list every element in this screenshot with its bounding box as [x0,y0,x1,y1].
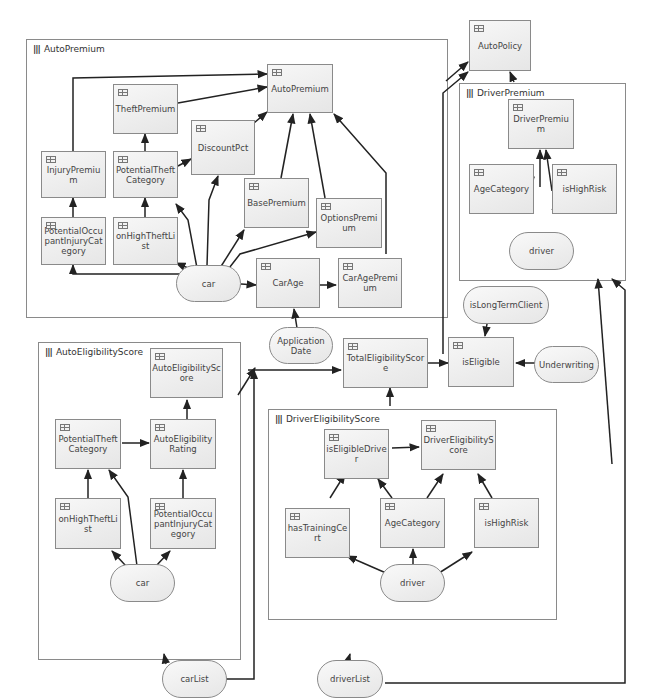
table-icon [118,222,128,229]
group-title: AutoPremium [44,44,105,54]
module-bars-icon: ||| [33,44,40,54]
module-bars-icon: ||| [466,88,473,98]
input-underwriting[interactable]: Underwriting [534,346,599,383]
table-icon [118,156,128,163]
input-application-date[interactable]: Application Date [269,327,333,364]
table-icon [290,513,300,520]
table-icon [155,424,165,431]
table-icon [479,503,489,510]
node-driver-premium[interactable]: DriverPremium [508,99,574,149]
node-aes-potential-occupant-injury-category[interactable]: PotentialOccupantInjuryCategory [150,498,216,549]
table-icon [329,434,339,441]
table-icon [348,343,358,350]
node-theft-premium[interactable]: TheftPremium [113,84,178,134]
module-bars-icon: ||| [45,347,52,357]
table-icon [474,25,484,32]
table-icon [60,424,70,431]
table-icon [155,353,165,360]
node-aes-potential-theft-category[interactable]: PotentialTheftCategory [55,419,121,469]
node-base-premium[interactable]: BasePremium [244,178,309,228]
node-auto-premium[interactable]: AutoPremium [267,64,333,113]
node-potential-occupant-injury-category[interactable]: PotentialOccupantInjuryCategory [41,217,106,265]
node-aes-on-high-theft-list[interactable]: onHighTheftList [55,498,121,549]
node-is-eligible[interactable]: isEligible [448,337,514,387]
table-icon [426,425,436,432]
group-title: DriverEligibilityScore [286,414,380,424]
input-car-list[interactable]: carList [162,660,227,698]
node-dp-age-category[interactable]: AgeCategory [469,164,534,214]
input-des-driver[interactable]: driver [380,564,445,602]
table-icon [249,183,259,190]
node-is-eligible-driver[interactable]: isEligibleDriver [324,429,389,479]
node-total-eligibility-score[interactable]: TotalEligibilityScore [343,338,428,388]
node-injury-premium[interactable]: InjuryPremium [41,151,106,198]
input-car[interactable]: car [176,265,241,302]
table-icon [155,503,165,510]
input-driver[interactable]: driver [509,232,574,270]
node-des-is-high-risk[interactable]: isHighRisk [474,498,539,548]
node-car-age[interactable]: CarAge [256,258,320,308]
node-auto-eligibility-score[interactable]: AutoEligibilityScore [150,348,223,398]
table-icon [272,69,282,76]
table-icon [46,156,56,163]
node-des-age-category[interactable]: AgeCategory [380,498,445,548]
node-auto-policy[interactable]: AutoPolicy [469,20,531,71]
node-discount-pct[interactable]: DiscountPct [191,120,255,175]
table-icon [46,222,56,229]
table-icon [60,503,70,510]
node-has-training-cert[interactable]: hasTrainingCert [285,508,350,558]
input-aes-car[interactable]: car [110,564,175,602]
table-icon [118,89,128,96]
group-title: AutoEligibilityScore [56,347,143,357]
table-icon [385,503,395,510]
module-bars-icon: ||| [275,414,282,424]
group-title: DriverPremium [477,88,545,98]
node-driver-eligibility-score[interactable]: DriverEligibilityScore [421,420,496,470]
table-icon [453,342,463,349]
table-icon [321,203,331,210]
table-icon [196,125,206,132]
input-driver-list[interactable]: driverList [317,660,383,698]
input-is-long-term-client[interactable]: isLongTermClient [463,286,549,324]
node-auto-eligibility-rating[interactable]: AutoEligibilityRating [150,419,216,469]
table-icon [343,263,353,270]
table-icon [261,263,271,270]
node-car-age-premium[interactable]: CarAgePremium [338,258,402,308]
table-icon [557,169,567,176]
node-on-high-theft-list[interactable]: onHighTheftList [113,217,178,265]
table-icon [513,104,523,111]
node-dp-is-high-risk[interactable]: isHighRisk [552,164,617,214]
node-options-premium[interactable]: OptionsPremium [316,198,382,248]
node-potential-theft-category[interactable]: PotentialTheftCategory [113,151,178,198]
table-icon [474,169,484,176]
